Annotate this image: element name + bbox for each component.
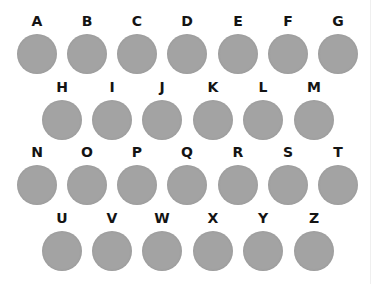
- letter-cell-s[interactable]: S: [266, 144, 310, 206]
- letter-cell-k[interactable]: K: [191, 79, 235, 141]
- letter-label: F: [266, 13, 310, 29]
- letter-label: A: [15, 13, 59, 29]
- letter-circle-p[interactable]: [117, 165, 157, 205]
- letter-circle-t[interactable]: [318, 165, 358, 205]
- letter-circle-q[interactable]: [167, 165, 207, 205]
- letter-cell-e[interactable]: E: [216, 13, 260, 75]
- letter-cell-m[interactable]: M: [292, 79, 336, 141]
- letter-circle-a[interactable]: [17, 34, 57, 74]
- letter-circle-l[interactable]: [243, 100, 283, 140]
- letter-label: Z: [292, 210, 336, 226]
- letter-circle-z[interactable]: [294, 231, 334, 271]
- letter-circle-y[interactable]: [243, 231, 283, 271]
- letter-circle-x[interactable]: [193, 231, 233, 271]
- letter-cell-f[interactable]: F: [266, 13, 310, 75]
- letter-label: K: [191, 79, 235, 95]
- letter-circle-m[interactable]: [294, 100, 334, 140]
- letter-label: J: [140, 79, 184, 95]
- letter-cell-g[interactable]: G: [316, 13, 360, 75]
- letter-cell-q[interactable]: Q: [165, 144, 209, 206]
- letter-circle-i[interactable]: [92, 100, 132, 140]
- letter-cell-b[interactable]: B: [65, 13, 109, 75]
- letter-circle-s[interactable]: [268, 165, 308, 205]
- letter-label: R: [216, 144, 260, 160]
- letter-circle-b[interactable]: [67, 34, 107, 74]
- letter-label: C: [115, 13, 159, 29]
- letter-circle-g[interactable]: [318, 34, 358, 74]
- letter-label: O: [65, 144, 109, 160]
- letter-circle-n[interactable]: [17, 165, 57, 205]
- letter-label: W: [140, 210, 184, 226]
- letter-cell-r[interactable]: R: [216, 144, 260, 206]
- letter-cell-n[interactable]: N: [15, 144, 59, 206]
- letter-cell-i[interactable]: I: [90, 79, 134, 141]
- letter-label: V: [90, 210, 134, 226]
- letter-label: U: [40, 210, 84, 226]
- letter-label: M: [292, 79, 336, 95]
- letter-cell-y[interactable]: Y: [241, 210, 285, 272]
- letter-cell-j[interactable]: J: [140, 79, 184, 141]
- letter-label: Q: [165, 144, 209, 160]
- letter-circle-u[interactable]: [42, 231, 82, 271]
- letter-label: G: [316, 13, 360, 29]
- letter-cell-w[interactable]: W: [140, 210, 184, 272]
- letter-label: X: [191, 210, 235, 226]
- letter-circle-r[interactable]: [218, 165, 258, 205]
- letter-cell-a[interactable]: A: [15, 13, 59, 75]
- letter-cell-d[interactable]: D: [165, 13, 209, 75]
- letter-cell-c[interactable]: C: [115, 13, 159, 75]
- letter-label: S: [266, 144, 310, 160]
- letter-label: N: [15, 144, 59, 160]
- letter-cell-x[interactable]: X: [191, 210, 235, 272]
- letter-cell-v[interactable]: V: [90, 210, 134, 272]
- letter-cell-l[interactable]: L: [241, 79, 285, 141]
- letter-circle-e[interactable]: [218, 34, 258, 74]
- letter-circle-d[interactable]: [167, 34, 207, 74]
- letter-cell-h[interactable]: H: [40, 79, 84, 141]
- letter-label: D: [165, 13, 209, 29]
- letter-circle-v[interactable]: [92, 231, 132, 271]
- letter-cell-z[interactable]: Z: [292, 210, 336, 272]
- letter-label: B: [65, 13, 109, 29]
- letter-label: L: [241, 79, 285, 95]
- letter-circle-w[interactable]: [142, 231, 182, 271]
- right-edge-divider: [370, 0, 371, 284]
- letter-label: T: [316, 144, 360, 160]
- letter-circle-k[interactable]: [193, 100, 233, 140]
- letter-circle-o[interactable]: [67, 165, 107, 205]
- letter-label: Y: [241, 210, 285, 226]
- letter-cell-p[interactable]: P: [115, 144, 159, 206]
- letter-label: P: [115, 144, 159, 160]
- letter-cell-u[interactable]: U: [40, 210, 84, 272]
- letter-label: H: [40, 79, 84, 95]
- letter-circle-c[interactable]: [117, 34, 157, 74]
- letter-circle-j[interactable]: [142, 100, 182, 140]
- letter-label: E: [216, 13, 260, 29]
- letter-label: I: [90, 79, 134, 95]
- letter-circle-f[interactable]: [268, 34, 308, 74]
- letter-cell-t[interactable]: T: [316, 144, 360, 206]
- letter-cell-o[interactable]: O: [65, 144, 109, 206]
- letter-circle-h[interactable]: [42, 100, 82, 140]
